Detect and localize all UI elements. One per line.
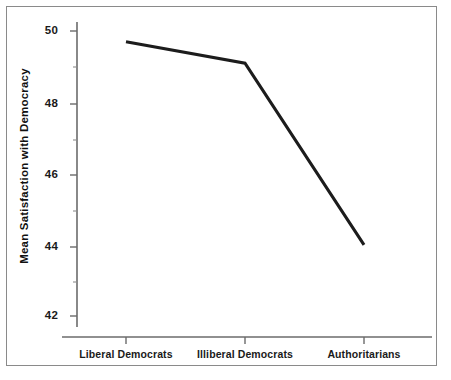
chart-figure: 50 48 46 44 42 Liberal Democrats Illiber… [0, 0, 451, 380]
plot-area [0, 0, 451, 380]
x-tick-label-authoritarians: Authoritarians [294, 348, 434, 360]
y-tick-label-42: 42 [14, 309, 58, 321]
y-tick-label-50: 50 [14, 24, 58, 36]
series-line-mean-satisfaction [126, 42, 364, 245]
y-axis-title: Mean Satisfaction with Democracy [18, 46, 30, 286]
